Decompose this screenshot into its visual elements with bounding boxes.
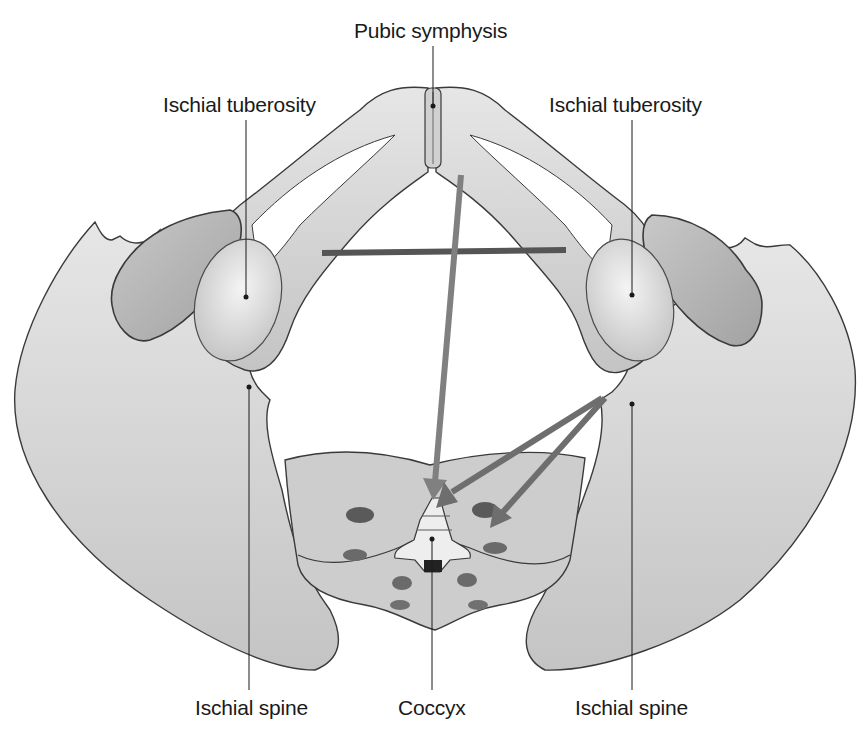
label-ischial-spine-left: Ischial spine — [195, 697, 308, 718]
label-ischial-tuberosity-left: Ischial tuberosity — [163, 94, 316, 115]
label-ischial-spine-right: Ischial spine — [575, 697, 688, 718]
anteroposterior-diameter-arrow — [423, 175, 461, 500]
pelvis-diagram — [0, 0, 864, 733]
label-coccyx: Coccyx — [398, 697, 466, 718]
intertuberous-diameter-line — [322, 250, 566, 253]
label-ischial-tuberosity-right: Ischial tuberosity — [549, 94, 702, 115]
label-pubic-symphysis: Pubic symphysis — [354, 20, 507, 41]
